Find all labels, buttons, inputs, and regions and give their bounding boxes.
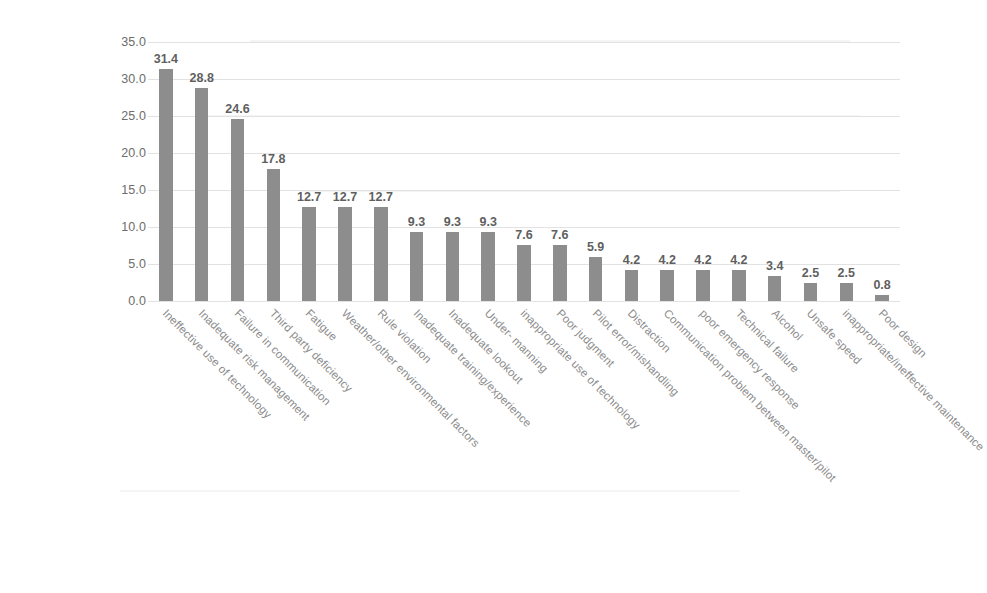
bar-value-label: 7.6 bbox=[515, 228, 532, 242]
bar-group[interactable]: 31.4 bbox=[159, 42, 173, 301]
x-axis-labels: Ineffective use of technologyInadequate … bbox=[148, 301, 900, 593]
bar-group[interactable]: 7.6 bbox=[553, 42, 567, 301]
x-axis-category-label: Communication problem between master/pil… bbox=[662, 307, 839, 484]
bar[interactable] bbox=[517, 245, 531, 301]
bar-value-label: 3.4 bbox=[766, 259, 783, 273]
bar[interactable] bbox=[732, 270, 746, 301]
bar-group[interactable]: 9.3 bbox=[446, 42, 460, 301]
bar-value-label: 4.2 bbox=[623, 253, 640, 267]
bar-value-label: 2.5 bbox=[802, 266, 819, 280]
bar-value-label: 7.6 bbox=[551, 228, 568, 242]
bar-value-label: 4.2 bbox=[659, 253, 676, 267]
bar-value-label: 31.4 bbox=[154, 52, 178, 66]
bar[interactable] bbox=[338, 207, 352, 301]
bar-value-label: 5.9 bbox=[587, 240, 604, 254]
x-axis-category-label: Under- manning bbox=[483, 307, 551, 375]
bar[interactable] bbox=[481, 232, 495, 301]
x-axis-category-label: Technical failure bbox=[733, 307, 801, 375]
bar-group[interactable]: 4.2 bbox=[625, 42, 639, 301]
bar[interactable] bbox=[446, 232, 460, 301]
bar-value-label: 0.8 bbox=[873, 278, 890, 292]
bar-value-label: 12.7 bbox=[333, 190, 357, 204]
bar-value-label: 4.2 bbox=[694, 253, 711, 267]
bar[interactable] bbox=[696, 270, 710, 301]
bar-group[interactable]: 2.5 bbox=[840, 42, 854, 301]
bar-value-label: 9.3 bbox=[479, 215, 496, 229]
bar-group[interactable]: 3.4 bbox=[768, 42, 782, 301]
bar-value-label: 17.8 bbox=[261, 152, 285, 166]
bar-group[interactable]: 4.2 bbox=[660, 42, 674, 301]
y-axis-tick: 0.0 bbox=[128, 294, 146, 308]
y-axis-labels: 35.030.025.020.015.010.05.00.0 bbox=[112, 42, 146, 301]
bar[interactable] bbox=[302, 207, 316, 301]
bar[interactable] bbox=[660, 270, 674, 301]
x-axis-category-label: Alcohol bbox=[769, 307, 805, 343]
y-axis-tick: 30.0 bbox=[121, 72, 146, 86]
bar-value-label: 28.8 bbox=[190, 71, 214, 85]
bar-value-label: 9.3 bbox=[444, 215, 461, 229]
bar-group[interactable]: 28.8 bbox=[195, 42, 209, 301]
bar[interactable] bbox=[589, 257, 603, 301]
bar-group[interactable]: 5.9 bbox=[589, 42, 603, 301]
y-axis-tick: 15.0 bbox=[121, 183, 146, 197]
y-axis-tick: 10.0 bbox=[121, 220, 146, 234]
bar-group[interactable]: 7.6 bbox=[517, 42, 531, 301]
bar-value-label: 2.5 bbox=[838, 266, 855, 280]
bar[interactable] bbox=[231, 119, 245, 301]
bar[interactable] bbox=[768, 276, 782, 301]
bars-layer: 31.428.824.617.812.712.712.79.39.39.37.6… bbox=[148, 42, 900, 301]
x-axis-category-label: inappropriate/ineffective maintenance bbox=[841, 307, 987, 453]
y-axis-tick: 5.0 bbox=[128, 257, 146, 271]
bar[interactable] bbox=[804, 283, 818, 302]
bar-group[interactable]: 4.2 bbox=[696, 42, 710, 301]
bar[interactable] bbox=[625, 270, 639, 301]
bar[interactable] bbox=[195, 88, 209, 301]
bar-group[interactable]: 2.5 bbox=[804, 42, 818, 301]
bar-group[interactable]: 12.7 bbox=[302, 42, 316, 301]
bar-value-label: 9.3 bbox=[408, 215, 425, 229]
y-axis-tick: 35.0 bbox=[121, 35, 146, 49]
bar[interactable] bbox=[553, 245, 567, 301]
bar[interactable] bbox=[159, 69, 173, 301]
bar-value-label: 24.6 bbox=[225, 102, 249, 116]
bar-group[interactable]: 9.3 bbox=[481, 42, 495, 301]
bar-value-label: 12.7 bbox=[297, 190, 321, 204]
bar-group[interactable]: 12.7 bbox=[374, 42, 388, 301]
plot-area: 31.428.824.617.812.712.712.79.39.39.37.6… bbox=[148, 42, 900, 301]
bar-group[interactable]: 9.3 bbox=[410, 42, 424, 301]
bar-group[interactable]: 0.8 bbox=[875, 42, 889, 301]
bar[interactable] bbox=[410, 232, 424, 301]
y-axis-tick: 25.0 bbox=[121, 109, 146, 123]
bar[interactable] bbox=[840, 283, 854, 302]
bar-group[interactable]: 17.8 bbox=[267, 42, 281, 301]
y-axis-tick: 20.0 bbox=[121, 146, 146, 160]
bar-group[interactable]: 4.2 bbox=[732, 42, 746, 301]
bar-group[interactable]: 12.7 bbox=[338, 42, 352, 301]
x-axis-category-label: Fatigue bbox=[304, 307, 340, 343]
bar[interactable] bbox=[374, 207, 388, 301]
bar-group[interactable]: 24.6 bbox=[231, 42, 245, 301]
bar-value-label: 12.7 bbox=[369, 190, 393, 204]
bar-value-label: 4.2 bbox=[730, 253, 747, 267]
bar[interactable] bbox=[267, 169, 281, 301]
